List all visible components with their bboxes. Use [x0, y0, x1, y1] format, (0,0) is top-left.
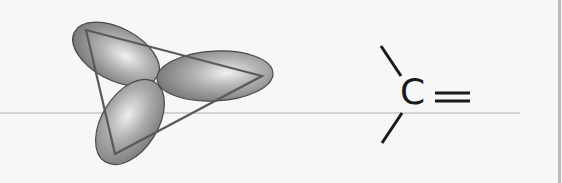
orbital-lobe-right — [156, 48, 274, 104]
diagram-canvas: C — [0, 0, 562, 183]
single-bond-lower — [382, 113, 402, 143]
sp2-orbital-diagram — [0, 0, 562, 183]
carbon-atom-label: C — [400, 74, 425, 110]
right-border — [558, 0, 561, 183]
single-bond-upper — [381, 46, 401, 76]
